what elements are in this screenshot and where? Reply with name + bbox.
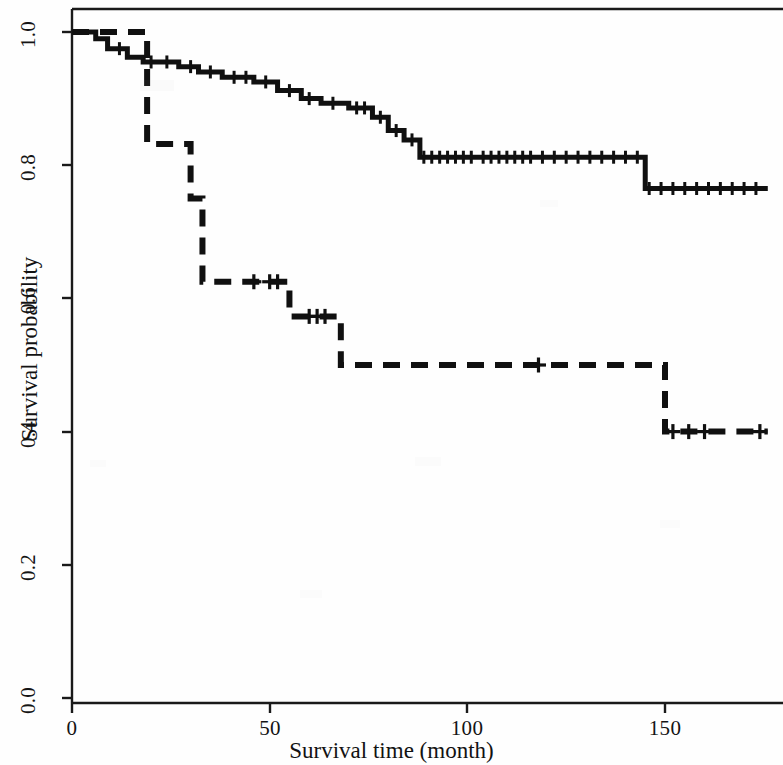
y-axis-ticks <box>62 32 72 698</box>
x-axis-title: Survival time (month) <box>0 738 783 764</box>
series-line <box>72 32 768 189</box>
series-layer <box>72 32 768 439</box>
series-group-1-solid <box>72 32 768 195</box>
censor-marks <box>119 42 755 195</box>
figure-canvas: 1.0 0.8 0.6 0.4 0.2 0.0 0 50 100 150 Sur… <box>0 0 783 765</box>
x-tick-label-4: 150 <box>635 718 695 739</box>
x-tick-label-1: 0 <box>42 718 102 739</box>
x-axis-ticks <box>72 703 665 713</box>
axis-frame <box>72 9 783 703</box>
x-tick-label-2: 50 <box>240 718 300 739</box>
y-axis-title: Survival probability <box>17 234 43 464</box>
kaplan-meier-plot <box>0 0 783 765</box>
y-tick-label-6: 0.0 <box>18 679 39 723</box>
censor-marks <box>246 274 767 439</box>
x-tick-label-3: 100 <box>437 718 497 739</box>
series-line <box>72 32 768 432</box>
y-tick-label-1: 1.0 <box>18 13 39 57</box>
y-tick-label-2: 0.8 <box>18 146 39 190</box>
y-tick-label-5: 0.2 <box>18 546 39 590</box>
series-group-2-dashed <box>72 32 768 439</box>
